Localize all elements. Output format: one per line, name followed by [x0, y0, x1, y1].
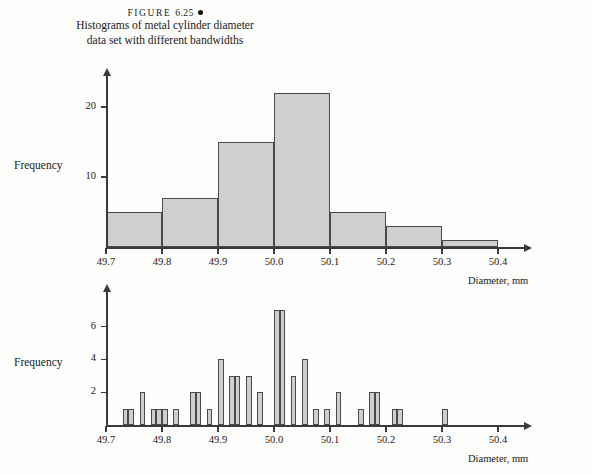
histogram-bar: [106, 212, 162, 247]
histogram-bar: [218, 142, 274, 247]
x-axis-tick: [105, 248, 106, 254]
histogram-bar: [336, 392, 342, 425]
x-axis-tick-label: 50.2: [362, 434, 410, 445]
histogram-bar: [302, 359, 308, 425]
x-axis-tick: [329, 248, 330, 254]
x-axis-tick-label: 50.2: [362, 256, 410, 267]
histogram-bar: [375, 392, 381, 425]
x-axis-title: Diameter, mm: [468, 275, 528, 286]
x-axis-tick-label: 50.3: [418, 434, 466, 445]
y-axis-tick: [101, 359, 107, 360]
x-axis-tick: [105, 426, 106, 432]
histogram-bar: [162, 198, 218, 247]
x-axis-tick-label: 49.9: [194, 434, 242, 445]
x-axis-line: [106, 425, 524, 427]
figure-caption-line-1: Histograms of metal cylinder diameter: [0, 18, 330, 33]
x-axis-tick-label: 50.1: [306, 256, 354, 267]
histogram-bar: [196, 392, 202, 425]
y-axis-tick-label: 20: [58, 100, 96, 111]
x-axis-tick: [217, 248, 218, 254]
figure-label-number: 6.25: [175, 8, 193, 18]
x-axis-tick-label: 50.4: [474, 256, 522, 267]
histogram-bar: [235, 376, 241, 425]
y-axis-tick-label: 10: [58, 170, 96, 181]
histogram-bar: [330, 212, 386, 247]
histogram-bar: [280, 310, 286, 425]
x-axis-tick-label: 50.3: [418, 256, 466, 267]
x-axis-line: [106, 247, 524, 249]
x-axis-arrow-icon: [524, 422, 532, 430]
x-axis-tick-label: 49.8: [138, 434, 186, 445]
figure-page: FIGURE 6.25 Histograms of metal cylinder…: [0, 0, 592, 474]
y-axis-arrow-icon: [103, 68, 111, 76]
y-axis-title: Frequency: [14, 356, 63, 368]
histogram-bar: [218, 359, 224, 425]
x-axis-tick: [273, 248, 274, 254]
x-axis-tick-label: 50.1: [306, 434, 354, 445]
x-axis-title: Diameter, mm: [468, 453, 528, 464]
figure-label-prefix: FIGURE: [127, 8, 171, 18]
x-axis-tick-label: 50.4: [474, 434, 522, 445]
x-axis-tick-label: 49.7: [82, 256, 130, 267]
histogram-wide-bandwidth: 102049.749.849.950.050.150.250.350.4Freq…: [0, 62, 592, 287]
histogram-bar: [397, 409, 403, 425]
x-axis-tick-label: 49.8: [138, 256, 186, 267]
x-axis-tick-label: 50.0: [250, 256, 298, 267]
histogram-bar: [257, 392, 263, 425]
x-axis-tick-label: 50.0: [250, 434, 298, 445]
x-axis-tick: [329, 426, 330, 432]
x-axis-tick: [497, 426, 498, 432]
figure-label: FIGURE 6.25: [0, 8, 330, 18]
figure-caption: FIGURE 6.25 Histograms of metal cylinder…: [0, 8, 330, 48]
x-axis-tick: [385, 426, 386, 432]
y-axis-tick-label: 6: [58, 320, 96, 331]
histogram-bar: [291, 376, 297, 425]
x-axis-tick: [217, 426, 218, 432]
histogram-bar: [442, 240, 498, 247]
x-axis-tick: [385, 248, 386, 254]
y-axis-tick: [101, 392, 107, 393]
histogram-narrow-bandwidth: 24649.749.849.950.050.150.250.350.4Frequ…: [0, 290, 592, 474]
histogram-bar: [140, 392, 146, 425]
y-axis-tick-label: 2: [58, 385, 96, 396]
histogram-bar: [324, 409, 330, 425]
y-axis-tick: [101, 106, 107, 107]
y-axis-title: Frequency: [14, 159, 63, 171]
x-axis-tick-label: 49.9: [194, 256, 242, 267]
x-axis-arrow-icon: [524, 244, 532, 252]
x-axis-tick-label: 49.7: [82, 434, 130, 445]
y-axis-tick: [101, 326, 107, 327]
x-axis-tick: [161, 426, 162, 432]
y-axis-tick: [101, 176, 107, 177]
histogram-bar: [386, 226, 442, 247]
x-axis-tick: [497, 248, 498, 254]
histogram-bar: [128, 409, 134, 425]
y-axis-line: [106, 76, 108, 247]
histogram-bar: [246, 376, 252, 425]
y-axis-tick-label: 4: [58, 352, 96, 363]
histogram-bar: [442, 409, 448, 425]
histogram-bar: [162, 409, 168, 425]
histogram-bar: [274, 93, 330, 247]
histogram-bar: [207, 409, 213, 425]
figure-caption-line-2: data set with different bandwidths: [0, 33, 330, 48]
figure-bullet-icon: [198, 10, 203, 15]
histogram-bar: [358, 409, 364, 425]
y-axis-arrow-icon: [103, 284, 111, 292]
histogram-bar: [173, 409, 179, 425]
histogram-bar: [313, 409, 319, 425]
x-axis-tick: [161, 248, 162, 254]
x-axis-tick: [441, 426, 442, 432]
x-axis-tick: [273, 426, 274, 432]
x-axis-tick: [441, 248, 442, 254]
